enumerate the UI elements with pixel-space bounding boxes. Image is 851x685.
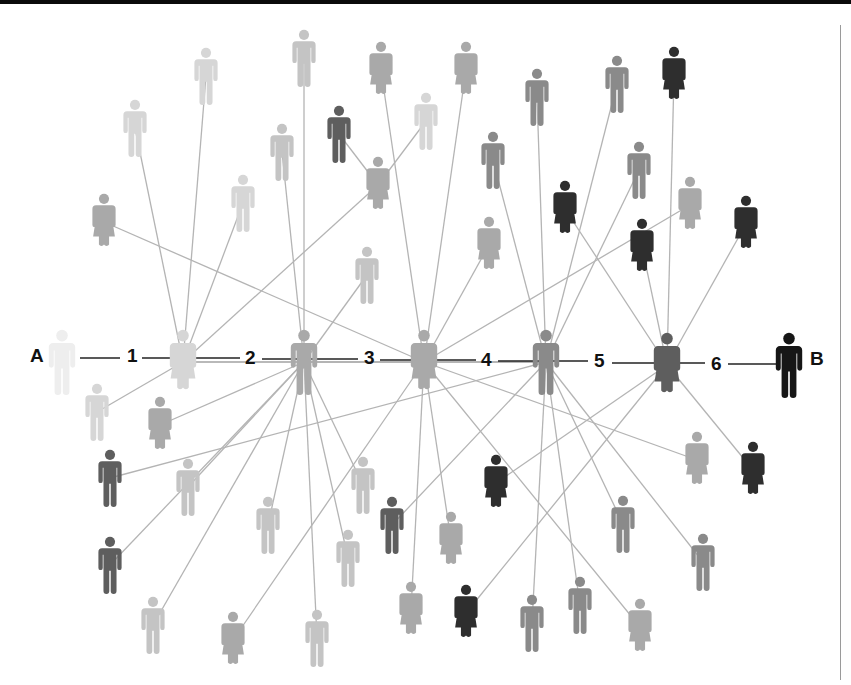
- connection-line: [411, 362, 424, 610]
- person-male-icon: [351, 457, 374, 514]
- person-male-icon: [176, 459, 199, 516]
- person-female-icon: [630, 219, 653, 271]
- person-male-icon: [525, 69, 548, 126]
- start-label: A: [30, 345, 44, 366]
- step-label-4: 4: [481, 349, 492, 370]
- person-female-icon: [366, 157, 389, 209]
- person-male-icon: [568, 577, 591, 634]
- person-male-icon: [98, 450, 121, 507]
- person-female-icon: [369, 42, 392, 94]
- person-female-icon: [484, 455, 507, 507]
- connection-line: [496, 365, 667, 483]
- connection-line: [110, 362, 304, 565]
- end-label: B: [810, 348, 824, 369]
- person-male-icon: [605, 56, 628, 113]
- person-male-icon: [414, 93, 437, 150]
- person-male-icon: [481, 132, 504, 189]
- person-female-icon: [148, 397, 171, 449]
- connection-line: [424, 362, 640, 627]
- person-female-icon: [685, 432, 708, 484]
- person-male-icon: [627, 142, 650, 199]
- chain-person-male-icon: [776, 333, 802, 398]
- connection-line: [282, 152, 304, 362]
- step-label-1: 1: [127, 345, 138, 366]
- connection-line: [104, 222, 424, 362]
- person-male-icon: [611, 496, 634, 553]
- person-female-icon: [553, 181, 576, 233]
- person-male-icon: [85, 384, 108, 441]
- chain-person-female-icon: [654, 333, 680, 392]
- connection-line: [97, 362, 183, 412]
- people-figures: [49, 30, 802, 667]
- connection-line: [183, 185, 378, 362]
- person-female-icon: [439, 512, 462, 564]
- person-male-icon: [355, 247, 378, 304]
- person-female-icon: [678, 177, 701, 229]
- person-male-icon: [327, 106, 350, 163]
- person-male-icon: [336, 530, 359, 587]
- person-male-icon: [270, 124, 293, 181]
- connection-line: [392, 362, 546, 525]
- connection-line: [304, 362, 317, 638]
- person-male-icon: [256, 497, 279, 554]
- person-female-icon: [92, 194, 115, 246]
- chain-person-male-icon: [533, 330, 559, 395]
- person-male-icon: [305, 610, 328, 667]
- connection-line: [667, 75, 674, 365]
- chain-person-female-icon: [411, 330, 437, 389]
- step-label-5: 5: [594, 350, 605, 371]
- person-male-icon: [141, 597, 164, 654]
- connection-line: [153, 362, 304, 625]
- network-diagram: A B 1 2 3 4 5 6: [0, 0, 851, 685]
- person-male-icon: [380, 497, 403, 554]
- person-male-icon: [194, 48, 217, 105]
- connection-line: [667, 224, 746, 365]
- person-male-icon: [98, 537, 121, 594]
- person-female-icon: [734, 196, 757, 248]
- person-female-icon: [628, 599, 651, 651]
- chain-person-male-icon: [291, 330, 317, 395]
- chain-person-male-icon: [49, 330, 75, 395]
- person-female-icon: [221, 612, 244, 664]
- connection-line: [493, 160, 546, 362]
- connection-line: [183, 203, 243, 362]
- person-female-icon: [454, 585, 477, 637]
- person-male-icon: [520, 595, 543, 652]
- person-male-icon: [691, 534, 714, 591]
- person-female-icon: [477, 217, 500, 269]
- person-male-icon: [123, 100, 146, 157]
- step-label-3: 3: [364, 347, 375, 368]
- connection-line: [537, 97, 546, 362]
- step-label-2: 2: [245, 347, 256, 368]
- person-female-icon: [454, 42, 477, 94]
- person-female-icon: [399, 582, 422, 634]
- connection-line: [110, 362, 546, 478]
- step-label-6: 6: [711, 353, 722, 374]
- connection-line: [183, 76, 206, 362]
- person-female-icon: [662, 47, 685, 99]
- connection-line: [135, 128, 183, 362]
- person-female-icon: [741, 442, 764, 494]
